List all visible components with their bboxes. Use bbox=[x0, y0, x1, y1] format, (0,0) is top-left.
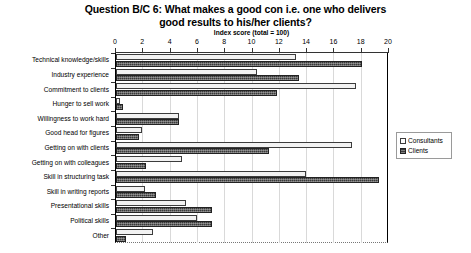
legend-item-consultants[interactable]: Consultants bbox=[400, 136, 448, 145]
y-category-label: Getting on with colleagues bbox=[32, 159, 109, 167]
bar-consultants-getting-on-with-colleagues bbox=[116, 156, 182, 162]
bar-clients-other bbox=[116, 236, 126, 242]
y-category-label: Other bbox=[93, 232, 110, 240]
bar-consultants-technical-knowledge-skills bbox=[116, 54, 296, 60]
bar-clients-skill-in-writing-reports bbox=[116, 192, 156, 198]
bar-clients-political-skills bbox=[116, 221, 212, 227]
bar-clients-skill-in-structuring-task bbox=[116, 177, 379, 183]
bar-clients-getting-on-with-clients bbox=[116, 148, 269, 154]
y-tick-mark bbox=[111, 68, 115, 69]
x-tick-label-12: 12 bbox=[275, 38, 283, 45]
x-axis-tick-labels: 02468101214161820 bbox=[0, 38, 471, 48]
bar-clients-industry-experience bbox=[116, 75, 299, 81]
y-tick-mark bbox=[111, 126, 115, 127]
x-tick-label-10: 10 bbox=[248, 38, 256, 45]
x-tick-mark-2 bbox=[142, 48, 143, 53]
bar-consultants-presentational-skills bbox=[116, 200, 186, 206]
bar-consultants-political-skills bbox=[116, 215, 197, 221]
x-tick-label-6: 6 bbox=[195, 38, 199, 45]
x-axis-label: Index score (total = 100) bbox=[115, 29, 388, 36]
y-category-label: Political skills bbox=[70, 217, 109, 225]
bar-consultants-good-head-for-figures bbox=[116, 127, 142, 133]
chart-container: Question B/C 6: What makes a good con i.… bbox=[0, 0, 471, 253]
x-tick-mark-4 bbox=[170, 48, 171, 53]
bar-consultants-other bbox=[116, 229, 153, 235]
chart-legend: Consultants Clients bbox=[396, 132, 452, 159]
x-tick-mark-8 bbox=[224, 48, 225, 53]
x-tick-mark-6 bbox=[197, 48, 198, 53]
bar-clients-presentational-skills bbox=[116, 207, 212, 213]
legend-label-clients: Clients bbox=[408, 147, 428, 155]
bar-consultants-willingness-to-work-hard bbox=[116, 113, 179, 119]
x-tick-label-16: 16 bbox=[329, 38, 337, 45]
y-category-label: Skill in structuring task bbox=[43, 173, 109, 181]
gridline-14 bbox=[306, 53, 307, 243]
gridline-18 bbox=[361, 53, 362, 243]
x-tick-label-8: 8 bbox=[222, 38, 226, 45]
x-tick-mark-12 bbox=[279, 48, 280, 53]
y-category-label: Skill in writing reports bbox=[47, 188, 109, 196]
chart-title-line-2: good results to his/her clients? bbox=[0, 16, 471, 29]
gridline-12 bbox=[279, 53, 280, 243]
y-category-label: Industry experience bbox=[51, 71, 109, 79]
y-category-label: Getting on with clients bbox=[44, 144, 109, 152]
bar-consultants-skill-in-writing-reports bbox=[116, 186, 145, 192]
x-tick-mark-16 bbox=[333, 48, 334, 53]
y-tick-mark bbox=[111, 111, 115, 112]
y-category-label: Hunger to sell work bbox=[53, 100, 109, 108]
y-category-label: Commitment to clients bbox=[44, 86, 109, 94]
y-category-label: Good head for figures bbox=[45, 129, 109, 137]
bar-consultants-hunger-to-sell-work bbox=[116, 98, 120, 104]
y-category-label: Technical knowledge/skills bbox=[32, 56, 109, 64]
x-tick-mark-20 bbox=[388, 48, 389, 53]
y-tick-mark bbox=[111, 155, 115, 156]
y-tick-mark bbox=[111, 141, 115, 142]
y-tick-mark bbox=[111, 82, 115, 83]
y-tick-mark bbox=[111, 199, 115, 200]
legend-swatch-clients-icon bbox=[400, 148, 406, 154]
x-tick-label-20: 20 bbox=[384, 38, 392, 45]
bar-consultants-industry-experience bbox=[116, 69, 257, 75]
x-tick-mark-14 bbox=[306, 48, 307, 53]
bar-clients-getting-on-with-colleagues bbox=[116, 163, 146, 169]
x-tick-label-18: 18 bbox=[357, 38, 365, 45]
y-tick-mark bbox=[111, 185, 115, 186]
y-axis-category-labels: Technical knowledge/skillsIndustry exper… bbox=[0, 53, 112, 243]
plot-area bbox=[115, 53, 388, 243]
bar-clients-commitment-to-clients bbox=[116, 90, 277, 96]
gridline-16 bbox=[333, 53, 334, 243]
legend-label-consultants: Consultants bbox=[408, 137, 443, 145]
y-tick-mark bbox=[111, 97, 115, 98]
chart-title-line-1: Question B/C 6: What makes a good con i.… bbox=[0, 3, 471, 16]
bar-consultants-commitment-to-clients bbox=[116, 83, 356, 89]
x-tick-mark-0 bbox=[115, 48, 116, 53]
x-tick-label-0: 0 bbox=[113, 38, 117, 45]
bar-clients-good-head-for-figures bbox=[116, 134, 139, 140]
bar-clients-technical-knowledge-skills bbox=[116, 61, 362, 67]
x-tick-mark-10 bbox=[252, 48, 253, 53]
y-tick-mark bbox=[111, 170, 115, 171]
y-category-label: Presentational skills bbox=[51, 202, 109, 210]
y-tick-mark bbox=[111, 53, 115, 54]
bar-clients-hunger-to-sell-work bbox=[116, 104, 123, 110]
y-category-label: Willingness to work hard bbox=[38, 115, 109, 123]
y-tick-mark bbox=[111, 228, 115, 229]
bar-clients-willingness-to-work-hard bbox=[116, 119, 179, 125]
bar-consultants-skill-in-structuring-task bbox=[116, 171, 306, 177]
x-tick-mark-18 bbox=[361, 48, 362, 53]
x-tick-label-2: 2 bbox=[140, 38, 144, 45]
legend-item-clients[interactable]: Clients bbox=[400, 146, 448, 155]
x-tick-label-4: 4 bbox=[168, 38, 172, 45]
y-tick-mark bbox=[111, 214, 115, 215]
legend-swatch-consultants-icon bbox=[400, 138, 406, 144]
x-tick-label-14: 14 bbox=[302, 38, 310, 45]
bar-consultants-getting-on-with-clients bbox=[116, 142, 352, 148]
